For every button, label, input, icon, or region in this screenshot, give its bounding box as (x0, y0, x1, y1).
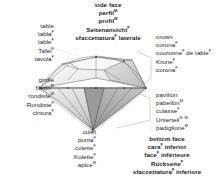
label-culet-line-it: apiceM (38, 161, 96, 169)
label-table-line-en: table (2, 22, 54, 30)
label-girdle-line-en: girdle (0, 76, 54, 84)
label-bottom-face-line-en: bottom face (118, 135, 216, 143)
leader-lines (48, 34, 157, 133)
leader-bracket-crown (138, 52, 151, 86)
label-side-face-line-en: side face (52, 1, 164, 9)
label-crown: crown coronaF couronneF de tableF KroneF… (156, 33, 216, 74)
leader-bracket-pavilion (117, 92, 150, 128)
label-crown-line-de: KroneF (156, 58, 216, 66)
label-crown-line-en: crown (156, 33, 216, 41)
label-bottom-face-line-de: RückseiteF (118, 160, 216, 168)
label-girdle: girdle filetínM rondisteM RondisteF cin… (0, 76, 54, 117)
label-table-line-de: TafelF (2, 47, 54, 55)
label-table-line-it: tavolaF (2, 55, 54, 63)
label-girdle-line-it: cinturaF (0, 109, 54, 117)
label-pavilion-line-it: padiglioneM (156, 124, 216, 132)
label-culet-line-fr: coletteF (38, 144, 96, 152)
label-side-face-line-fr: profilM (52, 17, 164, 25)
label-pavilion: pavilion pabellónM culasseF UnterteilN,… (156, 91, 216, 132)
label-crown-line-fr: couronneF de tableF (156, 49, 216, 57)
leader-line-bottom-face (150, 120, 152, 133)
label-pavilion-line-en: pavilion (156, 91, 216, 99)
label-girdle-line-fr: rondisteM (0, 92, 54, 100)
label-bottom-face: bottom face caraF inferior faceF inféri… (118, 135, 216, 176)
vertex-markers (39, 56, 147, 131)
label-side-face-line-de: SeitenansichtF (52, 26, 164, 34)
label-side-face: side face perfilM profilM SeitenansichtF… (52, 1, 164, 42)
diamond-body (39, 56, 147, 132)
label-bottom-face-line-it: sfaccettaturaF inferiore (118, 168, 216, 176)
leader-line-table (50, 47, 92, 61)
label-culet-line-de: KuletteF (38, 153, 96, 161)
label-crown-line-it: coronaF (156, 66, 216, 74)
label-bottom-face-line-fr: faceF inférieure (118, 151, 216, 159)
label-girdle-line-de: RondisteF (0, 101, 54, 109)
diamond-anatomy-figure: side face perfilM profilM SeitenansichtF… (0, 0, 216, 178)
label-table-line-fr: tableF (2, 38, 54, 46)
label-culet-line-en: culet (38, 128, 96, 136)
label-table: table tablaF tableF TafelF tavolaF (2, 22, 54, 63)
label-side-face-line-it: sfaccettaturaF laterale (52, 34, 164, 42)
label-culet: culet puntaF coletteF KuletteF apiceM (38, 128, 96, 169)
